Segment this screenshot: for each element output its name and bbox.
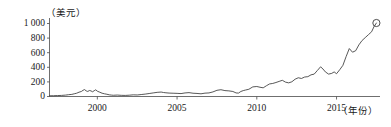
- y-tick-label: 200: [31, 77, 46, 87]
- stock-price-line: [50, 23, 377, 96]
- axis-tick-marks: [47, 24, 337, 100]
- y-tick-label: 1 000: [24, 18, 46, 28]
- x-axis-unit-label-group: （年份）: [338, 105, 378, 116]
- y-tick-label: 0: [40, 91, 45, 101]
- line-chart: （美元） 02004006008001 000 2000200520102015…: [0, 0, 391, 127]
- x-tick-label: 2010: [247, 103, 266, 113]
- y-tick-label: 400: [31, 62, 46, 72]
- chart-container: （美元） 02004006008001 000 2000200520102015…: [0, 0, 391, 127]
- x-axis-unit-label: （年份）: [338, 105, 378, 116]
- x-tick-label: 2000: [88, 103, 107, 113]
- y-tick-label: 800: [31, 33, 46, 43]
- y-axis-unit-label-group: （美元）: [46, 7, 86, 18]
- y-axis-tick-labels: 02004006008001 000: [24, 18, 46, 101]
- x-axis-tick-labels: 2000200520102015: [88, 103, 346, 113]
- y-tick-label: 600: [31, 48, 46, 58]
- y-axis-unit-label: （美元）: [46, 7, 86, 18]
- x-tick-label: 2005: [168, 103, 187, 113]
